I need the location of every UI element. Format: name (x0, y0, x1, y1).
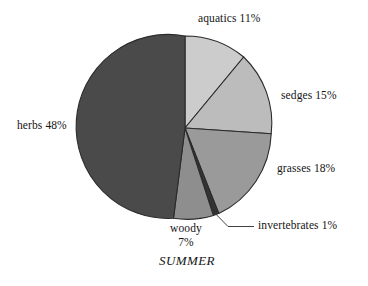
chart-title: SUMMER (139, 253, 235, 269)
pie-label-invertebrates: invertebrates 1% (258, 219, 337, 233)
pie-chart-figure: aquatics 11% sedges 15% grasses 18% inve… (0, 0, 368, 286)
pie-slice-herbs[interactable] (76, 34, 185, 218)
leader-line-invertebrates (216, 215, 254, 227)
leader-lines (216, 215, 254, 227)
pie-label-herbs: herbs 48% (17, 119, 67, 133)
pie-label-aquatics: aquatics 11% (198, 12, 260, 26)
pie-label-woody-name: woody (170, 222, 202, 234)
pie-label-woody: woody 7% (155, 222, 217, 249)
pie-slices (76, 34, 272, 219)
pie-label-woody-value: 7% (178, 236, 194, 248)
pie-label-grasses: grasses 18% (277, 162, 335, 176)
pie-label-sedges: sedges 15% (281, 89, 337, 103)
